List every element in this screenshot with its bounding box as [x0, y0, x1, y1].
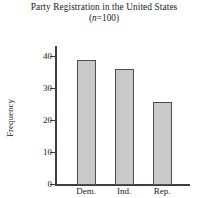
y-tick-label: 0	[48, 180, 53, 189]
plot-area: 010203040 Dem.Ind.Rep.	[55, 46, 191, 185]
y-axis-line	[55, 46, 57, 185]
y-tick-label: 20	[43, 115, 52, 124]
chart-title: Party Registration in the United States	[0, 2, 208, 12]
y-tick-label: 40	[43, 51, 52, 60]
bar-rep	[153, 102, 172, 185]
subtitle-suffix: =100)	[97, 13, 119, 23]
bar-ind	[115, 69, 134, 185]
y-axis-label: Frequency	[5, 78, 15, 158]
y-tick-label: 30	[43, 83, 52, 92]
y-tick-label: 10	[43, 147, 52, 156]
chart-subtitle: (n=100)	[0, 13, 208, 23]
chart-title-block: Party Registration in the United States …	[0, 2, 208, 23]
chart-figure: Party Registration in the United States …	[0, 0, 208, 198]
bar-dem	[77, 60, 96, 185]
x-tick-label-rep: Rep.	[137, 187, 187, 196]
